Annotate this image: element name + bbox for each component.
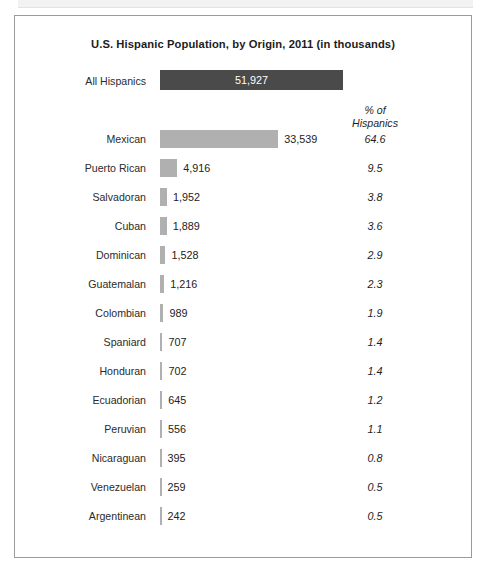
bar <box>160 130 278 148</box>
bar-track <box>160 391 162 409</box>
row-percent: 1.4 <box>345 333 405 351</box>
chart-row: Peruvian5561.1 <box>15 416 471 445</box>
row-percent: 1.1 <box>345 420 405 438</box>
row-label: Dominican <box>15 246 146 264</box>
bar-value: 1,952 <box>173 188 200 206</box>
bar-track <box>160 478 162 496</box>
bar-track <box>160 217 167 235</box>
row-label: Spaniard <box>15 333 146 351</box>
bar-value: 4,916 <box>183 159 210 177</box>
row-label: All Hispanics <box>15 72 146 90</box>
row-percent: 0.5 <box>345 478 405 496</box>
row-percent: 1.2 <box>345 391 405 409</box>
chart-row: Honduran7021.4 <box>15 358 471 387</box>
chart-row: Guatemalan1,2162.3 <box>15 271 471 300</box>
bar-track <box>160 188 167 206</box>
bar <box>160 449 162 467</box>
row-percent: 64.6 <box>345 130 405 148</box>
bar-track <box>160 246 165 264</box>
chart-rows: All Hispanics51,927Mexican33,53964.6Puer… <box>15 68 471 532</box>
bar-track <box>160 420 162 438</box>
row-label: Argentinean <box>15 507 146 525</box>
row-percent: 9.5 <box>345 159 405 177</box>
row-label: Guatemalan <box>15 275 146 293</box>
bar <box>160 159 177 177</box>
bar <box>160 217 167 235</box>
chart-row: Mexican33,53964.6 <box>15 126 471 155</box>
row-percent: 1.4 <box>345 362 405 380</box>
bar <box>160 246 165 264</box>
bar-value: 259 <box>168 478 186 496</box>
page-top-strip <box>18 0 473 8</box>
row-label: Mexican <box>15 130 146 148</box>
row-percent: 3.6 <box>345 217 405 235</box>
bar <box>160 333 162 351</box>
bar-value: 395 <box>168 449 186 467</box>
bar-value: 707 <box>168 333 186 351</box>
bar-track <box>160 159 177 177</box>
bar <box>160 478 162 496</box>
bar-value: 33,539 <box>284 130 317 148</box>
chart-row: Argentinean2420.5 <box>15 503 471 532</box>
row-percent: 0.8 <box>345 449 405 467</box>
chart-row: Salvadoran1,9523.8 <box>15 184 471 213</box>
bar-value: 1,528 <box>171 246 198 264</box>
row-percent: 3.8 <box>345 188 405 206</box>
bar-track <box>160 362 162 380</box>
row-percent: 2.9 <box>345 246 405 264</box>
bar <box>160 391 162 409</box>
row-label: Nicaraguan <box>15 449 146 467</box>
row-spacer <box>15 98 471 126</box>
row-percent: 0.5 <box>345 507 405 525</box>
bar-track <box>160 304 163 322</box>
bar-track <box>160 275 164 293</box>
bar <box>160 420 162 438</box>
bar <box>160 507 162 525</box>
row-label: Salvadoran <box>15 188 146 206</box>
row-label: Honduran <box>15 362 146 380</box>
bar-track <box>160 449 162 467</box>
chart-title: U.S. Hispanic Population, by Origin, 201… <box>15 38 471 50</box>
row-label: Peruvian <box>15 420 146 438</box>
bar-track: 51,927 <box>160 70 343 90</box>
bar-value: 556 <box>168 420 186 438</box>
bar-track <box>160 130 278 148</box>
chart-row-total: All Hispanics51,927 <box>15 68 471 98</box>
row-label: Ecuadorian <box>15 391 146 409</box>
figure-frame: U.S. Hispanic Population, by Origin, 201… <box>14 15 472 558</box>
bar-track <box>160 333 162 351</box>
bar-value: 242 <box>168 507 186 525</box>
bar-track <box>160 507 162 525</box>
row-label: Puerto Rican <box>15 159 146 177</box>
chart-row: Ecuadorian6451.2 <box>15 387 471 416</box>
chart-row: Colombian9891.9 <box>15 300 471 329</box>
bar-value: 645 <box>168 391 186 409</box>
bar-value: 1,889 <box>173 217 200 235</box>
chart-row: Dominican1,5282.9 <box>15 242 471 271</box>
row-percent: 1.9 <box>345 304 405 322</box>
bar <box>160 362 162 380</box>
chart-row: Cuban1,8893.6 <box>15 213 471 242</box>
row-percent: 2.3 <box>345 275 405 293</box>
chart-row: Puerto Rican4,9169.5 <box>15 155 471 184</box>
chart-row: Venezuelan2590.5 <box>15 474 471 503</box>
bar-value: 702 <box>168 362 186 380</box>
row-label: Venezuelan <box>15 478 146 496</box>
row-label: Cuban <box>15 217 146 235</box>
bar <box>160 275 164 293</box>
bar-value: 989 <box>169 304 187 322</box>
row-label: Colombian <box>15 304 146 322</box>
chart-row: Nicaraguan3950.8 <box>15 445 471 474</box>
chart-row: Spaniard7071.4 <box>15 329 471 358</box>
bar <box>160 188 167 206</box>
bar <box>160 304 163 322</box>
bar-value: 1,216 <box>170 275 197 293</box>
bar-value: 51,927 <box>160 70 343 90</box>
